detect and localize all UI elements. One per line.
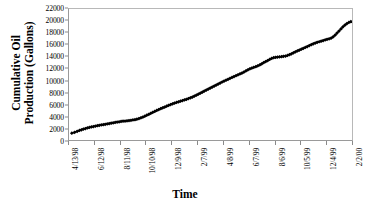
x-tick-mark (145, 141, 146, 145)
x-tick-mark (68, 141, 69, 145)
x-tick-mark (275, 141, 276, 145)
data-series-cumulative-oil-production (69, 9, 352, 140)
plot-area (68, 8, 353, 141)
x-tick-label: 2/7/99 (200, 148, 209, 166)
y-tick-label: 18000 (46, 28, 65, 37)
x-tick-mark (326, 141, 327, 145)
y-tick-label: 10000 (46, 76, 65, 85)
x-tick-label: 2/2/00 (355, 148, 364, 166)
x-tick-label: 4/13/98 (71, 148, 80, 170)
x-tick-mark (171, 141, 172, 145)
x-tick-label: 8/11/98 (123, 148, 132, 170)
y-tick-label: 12000 (46, 64, 65, 73)
x-axis-ticklabels: 4/13/986/12/988/11/9810/10/9812/9/982/7/… (0, 148, 370, 192)
x-tick-label: 6/12/98 (97, 148, 106, 170)
x-tick-label: 6/7/99 (252, 148, 261, 166)
x-tick-mark (300, 141, 301, 145)
y-tick-label: 16000 (46, 40, 65, 49)
y-axis-title-line-1: Cumulative Oil (10, 0, 23, 148)
x-tick-mark (249, 141, 250, 145)
chart-figure: Cumulative Oil Production (Gallons) 0200… (0, 0, 370, 213)
x-tick-label: 10/5/99 (303, 148, 312, 170)
data-point-marker (70, 131, 74, 135)
y-tick-label: 20000 (46, 16, 65, 25)
x-tick-label: 8/6/99 (278, 148, 287, 166)
y-tick-label: 8000 (49, 88, 64, 97)
y-tick-label: 6000 (49, 100, 64, 109)
y-tick-label: 0 (60, 137, 64, 146)
x-tick-mark (94, 141, 95, 145)
series-line (72, 22, 351, 134)
y-axis-ticks: 0200040006000800010000120001400016000180… (30, 0, 68, 150)
x-tick-label: 12/4/99 (329, 148, 338, 170)
x-tick-label: 12/9/98 (174, 148, 183, 170)
y-tick-label: 22000 (46, 4, 65, 13)
x-tick-label: 10/10/98 (148, 148, 157, 173)
x-tick-mark (197, 141, 198, 145)
x-tick-label: 4/8/99 (226, 148, 235, 166)
y-tick-label: 2000 (49, 124, 64, 133)
x-tick-mark (223, 141, 224, 145)
y-tick-label: 4000 (49, 112, 64, 121)
x-tick-mark (352, 141, 353, 145)
y-tick-label: 14000 (46, 52, 65, 61)
x-tick-mark (120, 141, 121, 145)
x-axis-title: Time (0, 188, 370, 200)
